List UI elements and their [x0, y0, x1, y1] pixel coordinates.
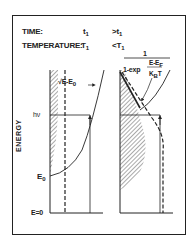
left-panel	[50, 70, 104, 213]
right-panel	[120, 58, 173, 213]
left-occupied-hatch	[50, 70, 58, 176]
band-diagram	[0, 0, 195, 249]
right-dos-curve	[140, 70, 170, 110]
left-dos-curve	[50, 70, 104, 176]
